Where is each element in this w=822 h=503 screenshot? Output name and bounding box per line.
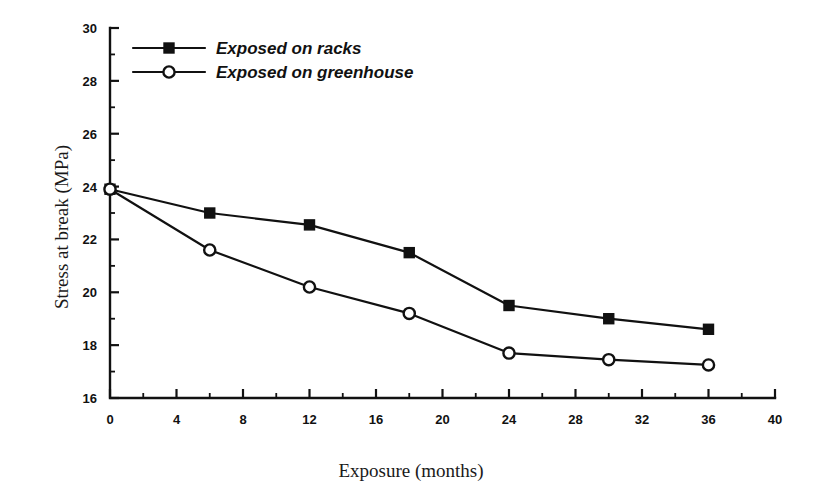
x-tick-label: 16 bbox=[369, 412, 383, 427]
y-tick-label: 16 bbox=[83, 391, 97, 406]
y-tick-label: 22 bbox=[83, 232, 97, 247]
series-2-point-circle-marker bbox=[603, 354, 614, 365]
legend-entry-2: Exposed on greenhouse bbox=[133, 63, 413, 82]
y-tick-label: 28 bbox=[83, 74, 97, 89]
legend-entry-1: Exposed on racks bbox=[133, 39, 362, 58]
series-1-point-square-marker bbox=[205, 208, 215, 218]
chart-legend: Exposed on racksExposed on greenhouse bbox=[133, 39, 413, 82]
x-tick-label: 4 bbox=[173, 412, 181, 427]
x-tick-label: 20 bbox=[435, 412, 449, 427]
series-1-point-square-marker bbox=[704, 324, 714, 334]
series-1-point-square-marker bbox=[305, 220, 315, 230]
chart-plot-area: 16182022242628300481216202428323640 Expo… bbox=[0, 0, 822, 503]
legend-label-2: Exposed on greenhouse bbox=[216, 63, 413, 82]
x-tick-label: 24 bbox=[502, 412, 517, 427]
y-tick-label: 24 bbox=[83, 180, 98, 195]
series-2 bbox=[104, 184, 714, 371]
legend-1-square-marker bbox=[164, 43, 174, 53]
y-tick-label: 26 bbox=[83, 127, 97, 142]
y-tick-label: 30 bbox=[83, 21, 97, 36]
chart-figure: 16182022242628300481216202428323640 Expo… bbox=[0, 0, 822, 503]
series-line-2 bbox=[110, 189, 709, 365]
series-1-point-square-marker bbox=[504, 301, 514, 311]
y-axis-title: Stress at break (MPa) bbox=[51, 77, 73, 377]
series-2-point-circle-marker bbox=[503, 347, 514, 358]
series-2-point-circle-marker bbox=[204, 244, 215, 255]
x-tick-label: 36 bbox=[701, 412, 715, 427]
x-axis-title: Exposure (months) bbox=[0, 460, 822, 482]
series-2-point-circle-marker bbox=[404, 308, 415, 319]
chart-series bbox=[104, 184, 714, 371]
y-tick-label: 20 bbox=[83, 285, 97, 300]
x-tick-label: 32 bbox=[635, 412, 649, 427]
y-tick-label: 18 bbox=[83, 338, 97, 353]
x-tick-label: 0 bbox=[106, 412, 113, 427]
x-tick-label: 12 bbox=[302, 412, 316, 427]
chart-tick-labels: 16182022242628300481216202428323640 bbox=[83, 21, 783, 427]
series-1-point-square-marker bbox=[604, 314, 614, 324]
series-1-point-square-marker bbox=[404, 248, 414, 258]
series-2-point-circle-marker bbox=[703, 359, 714, 370]
x-tick-label: 28 bbox=[568, 412, 582, 427]
series-2-point-circle-marker bbox=[304, 281, 315, 292]
x-tick-label: 8 bbox=[239, 412, 246, 427]
x-tick-label: 40 bbox=[768, 412, 782, 427]
series-2-point-circle-marker bbox=[104, 184, 115, 195]
legend-2-circle-marker bbox=[163, 66, 174, 77]
legend-label-1: Exposed on racks bbox=[216, 39, 362, 58]
